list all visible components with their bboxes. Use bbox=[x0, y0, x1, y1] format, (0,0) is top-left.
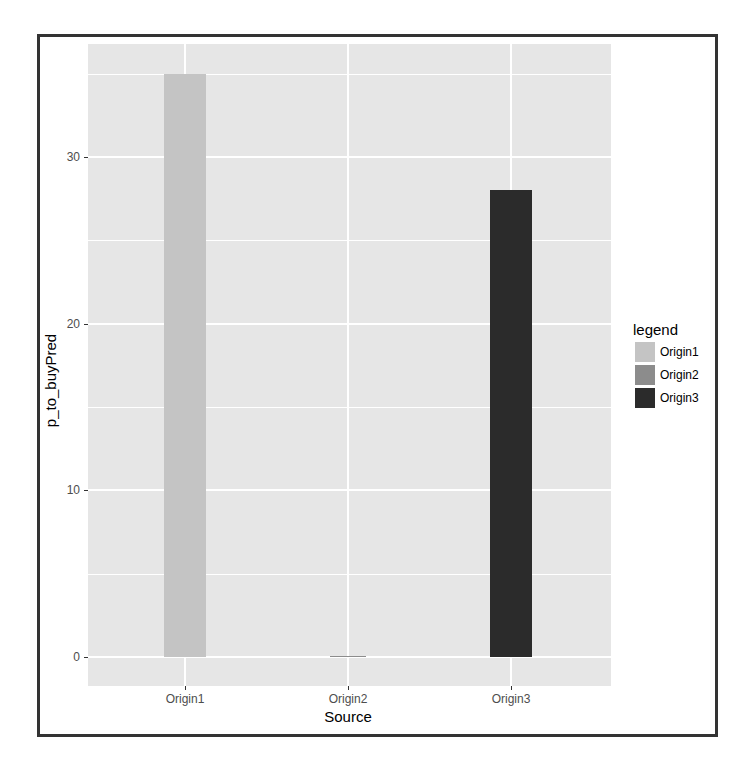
legend-key-origin1 bbox=[635, 342, 655, 362]
legend-label-origin1: Origin1 bbox=[660, 345, 699, 359]
legend-key-origin3 bbox=[635, 388, 655, 408]
legend-label-origin2: Origin2 bbox=[660, 368, 699, 382]
x-tick-mark bbox=[511, 686, 512, 690]
plot-panel bbox=[88, 44, 611, 686]
y-tick-label: 30 bbox=[50, 150, 80, 164]
y-tick-label: 0 bbox=[50, 650, 80, 664]
x-tick-label: Origin1 bbox=[145, 692, 225, 706]
vertical-gridline bbox=[347, 44, 349, 686]
y-tick-mark bbox=[84, 324, 88, 325]
x-tick-mark bbox=[185, 686, 186, 690]
y-axis-label: p_to_buyPred bbox=[42, 311, 59, 451]
y-tick-mark bbox=[84, 657, 88, 658]
bar-origin1 bbox=[164, 74, 206, 657]
y-tick-mark bbox=[84, 157, 88, 158]
x-axis-label: Source bbox=[298, 708, 398, 725]
x-tick-label: Origin3 bbox=[471, 692, 551, 706]
x-tick-label: Origin2 bbox=[308, 692, 388, 706]
legend-title: legend bbox=[633, 321, 678, 338]
bar-origin2 bbox=[330, 656, 366, 657]
legend-label-origin3: Origin3 bbox=[660, 391, 699, 405]
x-tick-mark bbox=[348, 686, 349, 690]
y-tick-mark bbox=[84, 490, 88, 491]
legend-key-origin2 bbox=[635, 365, 655, 385]
y-tick-label: 10 bbox=[50, 483, 80, 497]
bar-origin3 bbox=[490, 190, 532, 657]
